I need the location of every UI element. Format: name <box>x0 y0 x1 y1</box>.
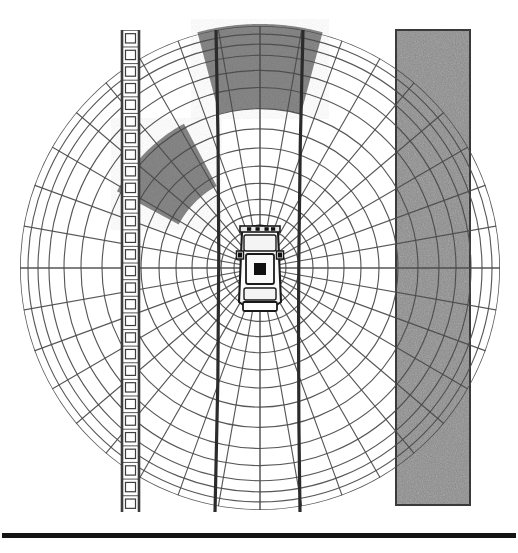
left-guardrail <box>121 30 140 512</box>
vehicle-rear-window <box>244 288 276 300</box>
vehicle-mirror-cap-right <box>278 253 282 258</box>
page-bottom-rule <box>2 533 516 538</box>
vehicle-windshield <box>244 235 276 251</box>
figure-root: Polar occupancy grid around ego vehicle <box>0 0 518 553</box>
vehicle-bumper-segment <box>256 227 260 231</box>
occupancy-grid-scene <box>0 0 518 553</box>
ego-vehicle <box>237 226 284 312</box>
vehicle-bumper-segment <box>247 227 251 231</box>
vehicle-trunk <box>243 302 277 311</box>
vehicle-bumper-segment <box>271 227 275 231</box>
vehicle-bumper-segment <box>265 227 269 231</box>
vehicle-mirror-cap-left <box>238 253 242 258</box>
vehicle-sunroof <box>254 263 266 275</box>
